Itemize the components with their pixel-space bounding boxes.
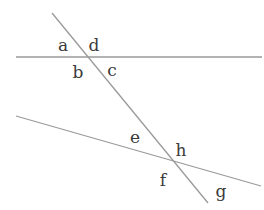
angle-diagram: [0, 0, 264, 210]
angle-label-b: b: [73, 64, 84, 81]
angle-label-e: e: [130, 129, 140, 146]
angle-label-d: d: [89, 37, 100, 54]
angle-label-c: c: [107, 62, 117, 79]
angle-label-h: h: [176, 142, 187, 159]
angle-label-g: g: [216, 183, 227, 200]
angle-label-a: a: [58, 37, 68, 54]
transversal-line: [52, 13, 208, 203]
angle-label-f: f: [160, 172, 166, 189]
